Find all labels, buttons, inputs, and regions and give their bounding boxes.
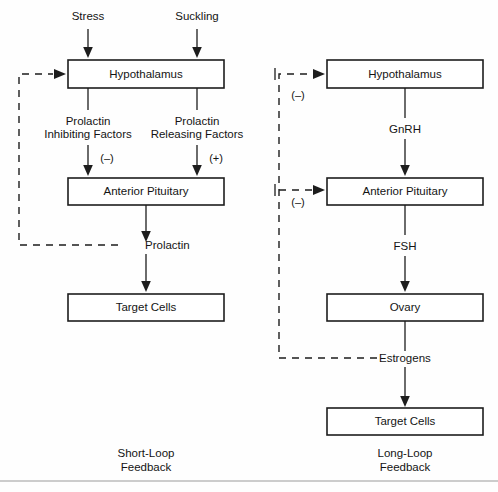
- hormone-estrogens-output: Estrogens: [379, 321, 431, 364]
- caption-short-loop-line1: Short-Loop: [118, 447, 175, 459]
- sign-label-prf-positive: (+): [209, 152, 223, 164]
- mediator-label-prf-line2: Releasing Factors: [151, 128, 244, 140]
- mediator-label-pif-line2: Inhibiting Factors: [44, 128, 132, 140]
- box-target-cells-short: Target Cells: [68, 294, 224, 321]
- mediator-fsh: FSH: [394, 205, 417, 292]
- sign-label-long-loop-pituitary: (–): [291, 196, 304, 208]
- input-label-suckling: Suckling: [175, 10, 218, 22]
- mediator-prolactin-inhibiting-factors: Prolactin Inhibiting Factors (–): [44, 88, 132, 176]
- caption-short-loop: Short-Loop Feedback: [118, 447, 175, 473]
- caption-short-loop-line2: Feedback: [121, 461, 172, 473]
- arrow-suckling-to-hypothalamus: [192, 29, 202, 58]
- mediator-prolactin-releasing-factors: Prolactin Releasing Factors (+): [151, 88, 244, 176]
- arrow-prolactin-to-target-cells: [141, 254, 151, 292]
- box-hypothalamus-long: Hypothalamus: [327, 60, 483, 88]
- mediator-gnrh: GnRH: [389, 88, 421, 176]
- feedback-diagram: Stress Suckling Hypothalamus Prolactin I…: [0, 0, 498, 492]
- box-label-anterior-pituitary-long: Anterior Pituitary: [362, 185, 447, 197]
- mediator-label-gnrh: GnRH: [389, 123, 421, 135]
- arrow-estrogens-to-target-cells: [400, 367, 410, 407]
- box-label-hypothalamus-long: Hypothalamus: [368, 68, 442, 80]
- long-loop-group: Hypothalamus GnRH Anterior Pituitary FSH: [275, 60, 483, 473]
- box-hypothalamus-short: Hypothalamus: [68, 60, 224, 88]
- hormone-label-prolactin: Prolactin: [145, 239, 190, 251]
- sign-label-pif-negative: (–): [100, 152, 113, 164]
- box-anterior-pituitary-long: Anterior Pituitary: [327, 178, 483, 205]
- box-ovary: Ovary: [327, 294, 483, 321]
- box-target-cells-long: Target Cells: [327, 408, 483, 435]
- caption-long-loop-line1: Long-Loop: [378, 447, 433, 459]
- box-label-anterior-pituitary-short: Anterior Pituitary: [103, 185, 188, 197]
- box-label-target-cells-long: Target Cells: [375, 415, 436, 427]
- input-label-stress: Stress: [72, 10, 105, 22]
- mediator-label-fsh: FSH: [394, 240, 417, 252]
- hormone-prolactin-output: Prolactin: [141, 205, 190, 251]
- hormone-label-estrogens: Estrogens: [379, 352, 431, 364]
- mediator-label-pif-line1: Prolactin: [66, 115, 111, 127]
- mediator-label-prf-line1: Prolactin: [175, 115, 220, 127]
- caption-long-loop: Long-Loop Feedback: [378, 447, 433, 473]
- box-label-hypothalamus-short: Hypothalamus: [109, 68, 183, 80]
- box-anterior-pituitary-short: Anterior Pituitary: [68, 178, 224, 205]
- box-label-target-cells-short: Target Cells: [116, 301, 177, 313]
- caption-long-loop-line2: Feedback: [380, 461, 431, 473]
- box-label-ovary: Ovary: [390, 301, 421, 313]
- short-loop-group: Stress Suckling Hypothalamus Prolactin I…: [19, 10, 244, 473]
- arrow-stress-to-hypothalamus: [83, 29, 93, 58]
- sign-label-long-loop-hypothalamus: (–): [291, 89, 304, 101]
- diagram-canvas: Stress Suckling Hypothalamus Prolactin I…: [0, 0, 498, 492]
